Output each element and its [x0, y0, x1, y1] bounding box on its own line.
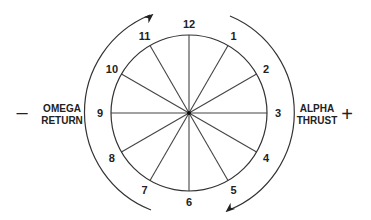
dial-number: 6 — [186, 196, 192, 208]
return-label: RETURN — [41, 115, 83, 126]
spoke — [189, 74, 257, 113]
omega-label: OMEGA — [43, 103, 81, 114]
dial-center — [187, 111, 191, 115]
dial-number: 1 — [230, 30, 236, 42]
dial-number: 8 — [109, 152, 115, 164]
clock-diagram: 121234567891011 – OMEGA RETURN ALPHA THR… — [0, 0, 371, 220]
dial-number: 9 — [97, 107, 103, 119]
dial-number: 4 — [263, 152, 270, 164]
dial-number: 2 — [263, 63, 269, 75]
spoke — [189, 45, 228, 113]
dial-number: 11 — [139, 30, 151, 42]
dial-number: 7 — [141, 184, 147, 196]
spoke — [121, 113, 189, 152]
spoke — [189, 113, 257, 152]
alpha-label: ALPHA — [300, 103, 334, 114]
spoke — [150, 45, 189, 113]
spoke — [189, 113, 228, 181]
dial-number: 10 — [106, 63, 118, 75]
dial-number: 3 — [275, 107, 281, 119]
spoke — [121, 74, 189, 113]
dial-number: 5 — [230, 184, 236, 196]
plus-sign: + — [341, 103, 353, 125]
thrust-label: THRUST — [297, 115, 338, 126]
dial-number: 12 — [183, 18, 195, 30]
minus-sign: – — [16, 101, 28, 123]
spoke — [150, 113, 189, 181]
